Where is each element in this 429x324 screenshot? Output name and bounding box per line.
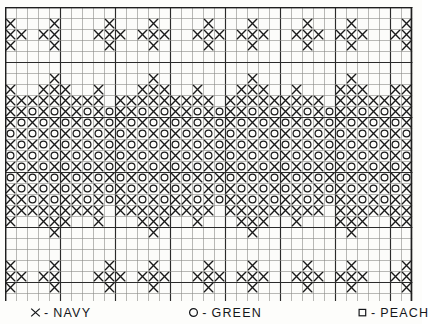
- legend-dash-peach: -: [371, 306, 376, 320]
- legend-label-navy: NAVY: [53, 306, 91, 320]
- legend: - NAVY - GREEN - PEACH: [5, 303, 417, 322]
- pattern-grid[interactable]: [5, 7, 415, 301]
- square-outline-icon: [357, 307, 368, 318]
- cross-x-icon: [30, 307, 41, 318]
- legend-label-green: GREEN: [211, 306, 261, 320]
- circle-o-icon: [188, 307, 199, 318]
- legend-label-peach: PEACH: [380, 306, 429, 320]
- legend-entry-peach: - PEACH: [357, 306, 429, 320]
- legend-entry-green: - GREEN: [188, 306, 262, 320]
- legend-entry-navy: - NAVY: [30, 306, 91, 320]
- legend-dash-navy: -: [44, 306, 49, 320]
- legend-dash-green: -: [202, 306, 207, 320]
- pattern-grid-canvas[interactable]: [5, 7, 415, 301]
